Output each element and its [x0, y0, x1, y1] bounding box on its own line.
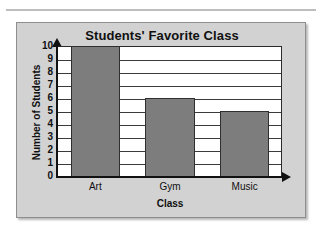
page-top-rule — [6, 9, 316, 11]
x-axis-line — [56, 176, 284, 178]
x-tick-label: Art — [58, 181, 133, 192]
plot-area — [58, 46, 282, 176]
x-axis-tick-labels: ArtGymMusic — [58, 181, 282, 197]
y-axis-tick-labels: 109876543210 — [35, 46, 53, 177]
chart-figure: Students' Favorite Class Number of Stude… — [0, 0, 322, 230]
y-tick-label: 8 — [47, 67, 53, 77]
y-tick-label: 7 — [47, 80, 53, 90]
y-tick-label: 0 — [47, 171, 53, 181]
bar — [145, 98, 194, 176]
bar — [220, 111, 269, 176]
x-axis-arrow-icon — [282, 172, 291, 182]
y-tick-label: 9 — [47, 54, 53, 64]
x-axis-title: Class — [58, 198, 282, 209]
chart-panel: Students' Favorite Class Number of Stude… — [16, 22, 306, 218]
y-tick-label: 5 — [47, 106, 53, 116]
y-tick-label: 3 — [47, 132, 53, 142]
bar — [71, 46, 120, 176]
y-tick-label: 1 — [47, 158, 53, 168]
x-tick-label: Music — [207, 181, 282, 192]
y-tick-label: 6 — [47, 93, 53, 103]
y-tick-label: 4 — [47, 119, 53, 129]
y-tick-label: 2 — [47, 145, 53, 155]
x-tick-label: Gym — [133, 181, 208, 192]
